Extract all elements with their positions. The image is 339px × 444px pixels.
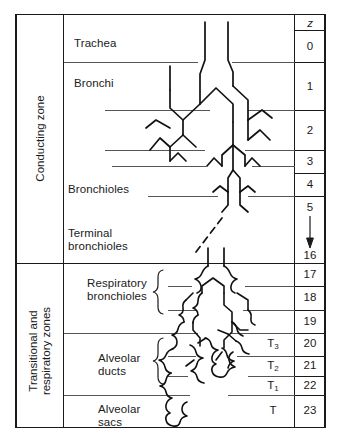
zone-label-transitional-respiratory: Transitional and respiratory zones: [27, 281, 53, 421]
terminal-bronchioles-drawing: [208, 248, 224, 266]
airway-label-sacs-line2: sacs: [98, 416, 122, 428]
gen-value-17: 17: [295, 268, 325, 280]
gen-value-23: 23: [295, 404, 325, 416]
airway-label-terminal-line2: bronchioles: [68, 240, 128, 252]
gen-value-1: 1: [295, 80, 325, 92]
generation-skip-dashes: [196, 218, 222, 252]
gen-value-4: 4: [295, 178, 325, 190]
trachea-wall-right: [228, 22, 233, 86]
trachea-wall-left: [200, 22, 205, 104]
airway-label-terminal-line1: Terminal: [68, 227, 112, 239]
gen-value-5: 5: [295, 201, 325, 213]
airway-label-bronchi: Bronchi: [74, 77, 114, 90]
airway-label-sacs-line1: Alveolar: [98, 403, 140, 415]
order-label-t2-sub: 2: [274, 364, 278, 373]
zone-label-conducting: Conducting zone: [34, 72, 47, 206]
order-label-t1: T1: [256, 379, 290, 393]
gen-column-header: z: [295, 17, 325, 29]
gen-value-20: 20: [295, 337, 325, 349]
gen-value-16: 16: [295, 249, 325, 261]
order-label-t: T: [256, 404, 290, 416]
gen-value-18: 18: [295, 291, 325, 303]
airway-label-alveolar-ducts: Alveolar ducts: [98, 352, 140, 378]
airway-label-ducts-line1: Alveolar: [98, 352, 140, 364]
airway-label-terminal-bronchioles: Terminal bronchioles: [68, 227, 128, 253]
airway-label-bronchioles: Bronchioles: [68, 183, 129, 196]
gen-value-3: 3: [295, 155, 325, 167]
zone-label-line1: Transitional and: [27, 310, 39, 391]
order-label-t3: T3: [256, 337, 290, 351]
airway-label-ducts-line2: ducts: [98, 365, 126, 377]
alveolar-ducts-and-sacs-drawing: [159, 330, 249, 426]
gen-value-19: 19: [295, 315, 325, 327]
order-label-t1-sub: 1: [274, 384, 278, 393]
zone-label-line2: respiratory zones: [40, 307, 52, 395]
airway-label-alveolar-sacs: Alveolar sacs: [98, 403, 140, 429]
airway-label-trachea: Trachea: [74, 37, 116, 50]
order-label-t-base: T: [269, 404, 276, 416]
gen-value-21: 21: [295, 359, 325, 371]
order-label-t2: T2: [256, 359, 290, 373]
airway-label-respbronch-line2: bronchioles: [87, 290, 147, 302]
gen-value-22: 22: [295, 379, 325, 391]
gen-value-2: 2: [295, 124, 325, 136]
airway-label-respbronch-line1: Respiratory: [87, 277, 147, 289]
airway-label-respiratory-bronchioles: Respiratory bronchioles: [87, 277, 147, 303]
gen-value-0: 0: [295, 40, 325, 52]
weibel-airway-diagram: Conducting zone Transitional and respira…: [0, 0, 339, 444]
order-label-t3-sub: 3: [274, 342, 278, 351]
respiratory-bronchioles-drawing: [172, 266, 255, 349]
